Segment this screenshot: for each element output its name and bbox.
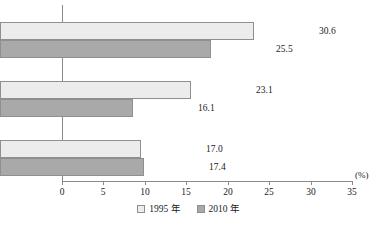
bar-value-2010-income-mid: 16.1 [198,99,215,117]
x-tick-label-7: 35 [347,186,357,198]
x-tick-mark-0 [62,182,63,185]
x-tick-mark-4 [228,182,229,185]
legend: 1995 年 2010 年 [0,203,377,215]
x-tick-mark-6 [311,182,312,185]
x-tick-mark-5 [269,182,270,185]
bar-2010-income-mid [0,99,133,117]
legend-label-2010: 2010 年 [209,203,240,215]
bar-value-1995-income-mid: 23.1 [256,81,273,99]
x-tick-label-5: 25 [264,186,274,198]
x-axis-line [62,181,353,182]
bar-value-2010-income-low: 17.4 [209,158,226,176]
x-tick-mark-1 [103,182,104,185]
bar-2010-income-low [0,158,144,176]
x-tick-mark-3 [186,182,187,185]
bar-1995-income-mid [0,81,191,99]
bar-value-2010-income-high: 25.5 [276,40,293,58]
x-axis-unit-label: (%) [355,170,369,181]
x-tick-label-2: 10 [140,186,150,198]
x-tick-label-0: 0 [60,186,65,198]
bar-value-1995-income-high: 30.6 [319,22,336,40]
x-tick-mark-7 [352,182,353,185]
bar-1995-income-low [0,140,141,158]
legend-swatch-icon-2010 [197,205,205,213]
legend-item-1995[interactable]: 1995 年 [137,203,180,215]
x-tick-label-4: 20 [223,186,233,198]
x-tick-label-6: 30 [306,186,316,198]
x-tick-mark-2 [145,182,146,185]
legend-item-2010[interactable]: 2010 年 [197,203,240,215]
bar-1995-income-high [0,22,254,40]
x-tick-label-3: 15 [181,186,191,198]
bar-chart: 収入高位層 収入中位層 収入低位層 30.6 25.5 23.1 16.1 17… [0,0,377,225]
x-tick-label-1: 5 [101,186,106,198]
bar-2010-income-high [0,40,211,58]
legend-label-1995: 1995 年 [149,203,180,215]
legend-swatch-icon-1995 [137,205,145,213]
bar-value-1995-income-low: 17.0 [206,140,223,158]
